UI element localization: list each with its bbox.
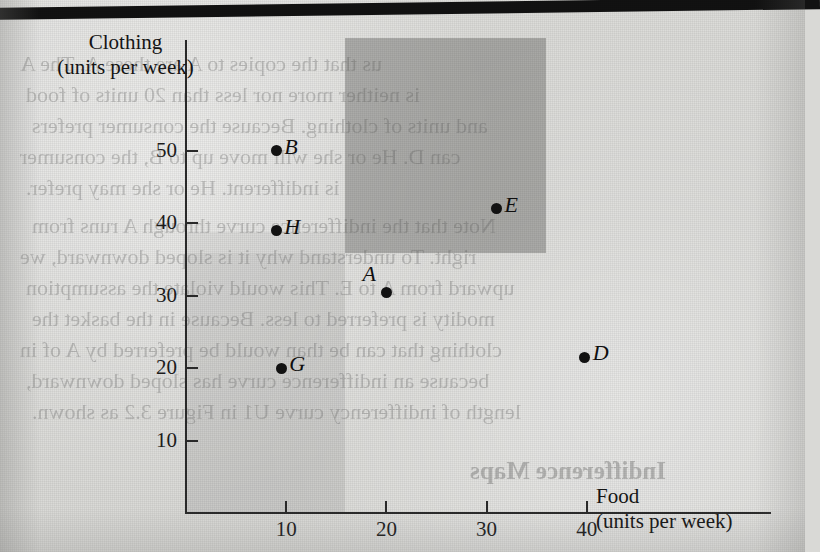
y-tick-10 xyxy=(187,440,198,442)
region-less-preferred-upper xyxy=(186,232,345,253)
y-tick-30 xyxy=(187,295,198,297)
y-tick-label-wrap: 50 xyxy=(125,138,177,139)
x-tick-label-30: 30 xyxy=(457,517,517,542)
data-point-a xyxy=(381,287,392,298)
y-axis-line xyxy=(185,40,187,514)
y-tick-50 xyxy=(187,150,198,152)
x-axis-title-main: Food xyxy=(596,484,796,509)
x-axis-title: Food (units per week) xyxy=(596,484,796,534)
x-tick-10 xyxy=(285,501,287,512)
data-point-label-a: A xyxy=(362,261,375,287)
region-preferred-to-a xyxy=(345,38,546,253)
y-tick-40 xyxy=(187,222,198,224)
y-axis-title-units: (units per week) xyxy=(38,55,213,80)
data-point-d xyxy=(579,352,590,363)
y-tick-label-50: 50 xyxy=(137,138,177,163)
y-tick-label-wrap: 10 xyxy=(125,428,177,429)
data-point-b xyxy=(271,145,282,156)
y-axis-title-main: Clothing xyxy=(38,30,213,55)
y-axis-title: Clothing (units per week) xyxy=(38,30,213,80)
data-point-label-e: E xyxy=(505,192,518,218)
x-tick-label-40: 40 xyxy=(557,517,617,542)
x-tick-label-10: 10 xyxy=(256,517,316,542)
x-tick-40 xyxy=(586,501,588,512)
data-point-label-h: H xyxy=(284,214,300,240)
y-tick-label-wrap: 40 xyxy=(125,210,177,211)
y-tick-label-30: 30 xyxy=(137,283,177,308)
y-tick-label-20: 20 xyxy=(137,355,177,380)
data-point-g xyxy=(276,363,287,374)
y-tick-label-10: 10 xyxy=(137,428,177,453)
x-tick-label-20: 20 xyxy=(356,517,416,542)
data-point-label-g: G xyxy=(289,351,305,377)
y-tick-20 xyxy=(187,367,198,369)
y-tick-label-wrap: 20 xyxy=(125,355,177,356)
data-point-label-b: B xyxy=(284,134,297,160)
x-tick-30 xyxy=(486,501,488,512)
x-axis-title-units: (units per week) xyxy=(596,509,796,534)
region-less-preferred-than-a xyxy=(186,253,345,512)
data-point-h xyxy=(271,225,282,236)
x-tick-20 xyxy=(385,501,387,512)
y-tick-label-wrap: 30 xyxy=(125,283,177,284)
y-tick-label-40: 40 xyxy=(137,210,177,235)
data-point-label-d: D xyxy=(593,340,609,366)
